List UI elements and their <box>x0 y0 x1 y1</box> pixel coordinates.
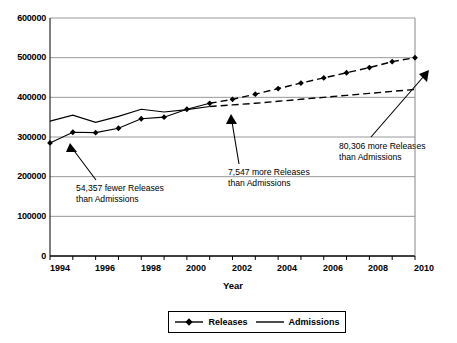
legend-label-admissions: Admissions <box>289 317 340 327</box>
x-axis-ticks <box>50 256 415 260</box>
legend-item-admissions[interactable]: Admissions <box>255 316 340 328</box>
chart-legend: Releases Admissions <box>168 311 346 333</box>
admissions-legend-swatch <box>255 316 285 328</box>
annotation-2001-arrow <box>226 114 239 164</box>
plot-area <box>0 0 457 343</box>
releases-legend-swatch <box>174 316 204 328</box>
annotation-2010-arrow <box>371 70 429 137</box>
releases-line-projected <box>210 58 415 104</box>
annotation-1994-arrow <box>66 143 96 180</box>
legend-item-releases[interactable]: Releases <box>174 316 247 328</box>
legend-label-releases: Releases <box>208 317 247 327</box>
gridlines <box>50 18 415 256</box>
releases-data-markers <box>47 55 418 146</box>
admissions-line-projected <box>210 89 415 106</box>
chart-container: 600000 500000 400000 300000 200000 10000… <box>0 0 457 343</box>
